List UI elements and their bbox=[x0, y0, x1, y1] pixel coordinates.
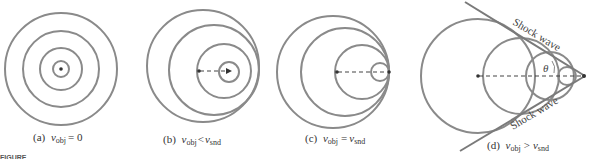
caption-a: (a) vobj= 0 bbox=[33, 131, 83, 145]
shock-wave-line-top bbox=[465, 2, 585, 76]
source-dot bbox=[387, 70, 391, 74]
caption-b: (b) vobj<vsnd bbox=[163, 133, 221, 147]
caption-c: (c) vobj=vsnd bbox=[305, 132, 365, 146]
angle-arc bbox=[552, 61, 555, 73]
origin-dot bbox=[197, 69, 201, 73]
figure-caption-partial: FIGURE bbox=[0, 154, 27, 159]
origin-dot bbox=[476, 74, 480, 78]
panel-a-stationary-source: (a) vobj= 0 bbox=[5, 13, 117, 145]
source-dot bbox=[582, 74, 586, 78]
origin-dot bbox=[335, 70, 339, 74]
doppler-shock-diagram: (a) vobj= 0 (b) vobj<vsnd (c) vobj=vsnd bbox=[0, 0, 595, 159]
angle-theta-label: θ bbox=[543, 62, 549, 74]
arrow-head-icon bbox=[226, 68, 232, 74]
source-dot bbox=[59, 67, 63, 71]
panel-b-subsonic-source: (b) vobj<vsnd bbox=[147, 10, 259, 147]
wavefront-circle bbox=[277, 16, 389, 128]
caption-d: (d) vobj>vsnd bbox=[487, 139, 549, 153]
wavefront-circle bbox=[169, 25, 259, 115]
panel-c-sonic-source: (c) vobj=vsnd bbox=[277, 16, 391, 146]
panel-d-supersonic-source: θ Shock wave Shock wave (d) vobj>vsnd bbox=[421, 2, 586, 153]
